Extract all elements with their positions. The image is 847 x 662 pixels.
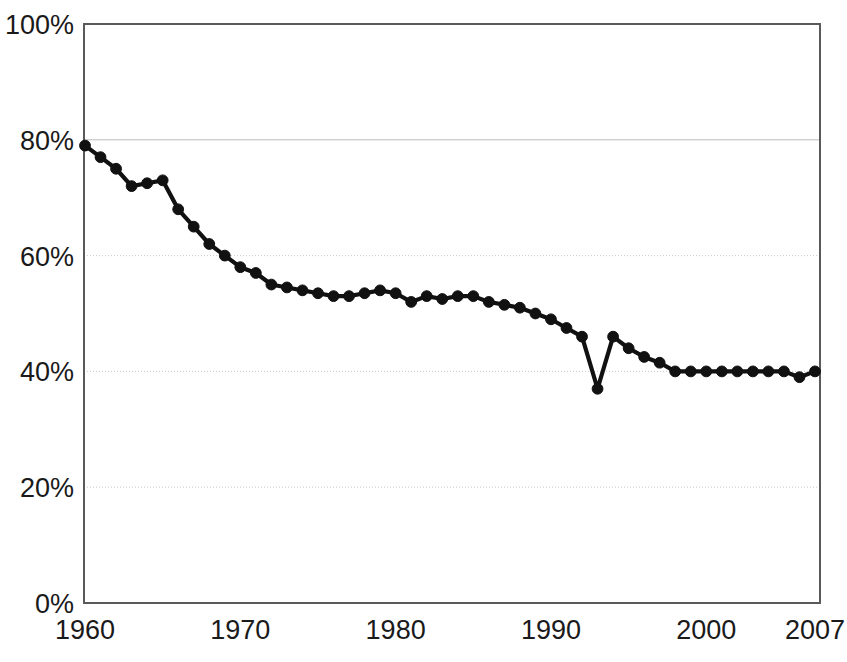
data-point-1976: [328, 291, 339, 302]
data-point-1991: [561, 323, 572, 334]
data-point-1996: [639, 352, 650, 363]
data-point-1988: [514, 302, 525, 313]
data-point-1999: [685, 366, 696, 377]
data-point-2004: [763, 366, 774, 377]
data-point-1989: [530, 308, 541, 319]
data-point-1986: [483, 297, 494, 308]
data-point-2001: [716, 366, 727, 377]
data-point-2006: [794, 372, 805, 383]
data-point-2000: [701, 366, 712, 377]
data-point-1995: [623, 343, 634, 354]
y-tick-label-40%: 40%: [20, 357, 74, 387]
data-point-1985: [468, 291, 479, 302]
data-point-1987: [499, 299, 510, 310]
data-point-1969: [219, 250, 230, 261]
y-tick-label-20%: 20%: [20, 473, 74, 503]
data-point-1971: [250, 268, 261, 279]
data-point-1968: [204, 239, 215, 250]
data-point-1990: [546, 314, 557, 325]
x-tick-label-1990: 1990: [521, 615, 581, 645]
data-point-1994: [608, 331, 619, 342]
data-point-1962: [111, 163, 122, 174]
data-point-1972: [266, 279, 277, 290]
data-point-1979: [375, 285, 386, 296]
y-tick-label-60%: 60%: [20, 242, 74, 272]
plot-area-border: [84, 24, 820, 603]
plot-frame-group: [84, 24, 820, 603]
data-point-2007: [810, 366, 821, 377]
data-point-1978: [359, 288, 370, 299]
data-point-1980: [390, 288, 401, 299]
data-point-1967: [188, 221, 199, 232]
data-point-1977: [344, 291, 355, 302]
data-point-1970: [235, 262, 246, 273]
data-point-2005: [779, 366, 790, 377]
y-axis-tick-labels: 0%20%40%60%80%100%: [5, 10, 74, 619]
data-point-1981: [406, 297, 417, 308]
data-point-1975: [313, 288, 324, 299]
data-point-1998: [670, 366, 681, 377]
x-tick-label-2007: 2007: [785, 615, 845, 645]
x-tick-label-1980: 1980: [366, 615, 426, 645]
x-tick-label-1960: 1960: [55, 615, 115, 645]
data-point-1973: [282, 282, 293, 293]
y-tick-label-100%: 100%: [5, 10, 74, 40]
data-point-1964: [142, 178, 153, 189]
data-point-1992: [577, 331, 588, 342]
data-point-1993: [592, 383, 603, 394]
data-point-1984: [452, 291, 463, 302]
data-point-1963: [126, 181, 137, 192]
data-point-1960: [80, 140, 91, 151]
data-point-1965: [157, 175, 168, 186]
data-series-group: [80, 140, 821, 394]
gridlines-group: [84, 140, 820, 487]
x-axis-tick-labels: 196019701980199020002007: [55, 615, 845, 645]
data-point-1983: [437, 294, 448, 305]
chart-canvas: 0%20%40%60%80%100% 196019701980199020002…: [0, 0, 847, 662]
x-tick-label-2000: 2000: [676, 615, 736, 645]
data-point-2002: [732, 366, 743, 377]
series-markers-percent: [80, 140, 821, 394]
data-point-1974: [297, 285, 308, 296]
line-chart-figure: 0%20%40%60%80%100% 196019701980199020002…: [0, 0, 847, 662]
data-point-1966: [173, 204, 184, 215]
data-point-2003: [747, 366, 758, 377]
y-tick-label-80%: 80%: [20, 126, 74, 156]
data-point-1982: [421, 291, 432, 302]
data-point-1961: [95, 152, 106, 163]
data-point-1997: [654, 357, 665, 368]
x-tick-label-1970: 1970: [210, 615, 270, 645]
series-line-percent: [85, 146, 815, 389]
